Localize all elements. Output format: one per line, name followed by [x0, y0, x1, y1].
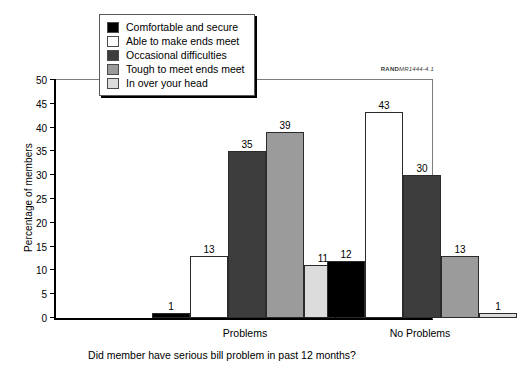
bar: 30 — [403, 175, 441, 318]
legend-item: Tough to meet ends meet — [107, 62, 245, 76]
legend-swatch-icon — [107, 78, 119, 89]
y-axis-tick-label: 5 — [41, 289, 47, 300]
y-axis-tick — [50, 198, 56, 199]
y-axis-tick-label: 20 — [36, 217, 47, 228]
y-axis-tick-label: 10 — [36, 265, 47, 276]
y-axis-tick-label: 30 — [36, 170, 47, 181]
x-axis-category-label: No Problems — [390, 327, 451, 339]
bar-value-label: 30 — [416, 163, 427, 174]
legend-item: Occasional difficulties — [107, 48, 245, 62]
y-axis-tick — [50, 222, 56, 223]
y-axis-tick-label: 45 — [36, 98, 47, 109]
legend-swatch-icon — [107, 64, 119, 75]
y-axis-tick-label: 35 — [36, 146, 47, 157]
legend-item: Able to make ends meet — [107, 34, 245, 48]
y-axis-tick — [50, 317, 56, 318]
legend-swatch-icon — [107, 36, 119, 47]
y-axis-tick-label: 50 — [36, 75, 47, 86]
bar-value-label: 12 — [340, 249, 351, 260]
y-axis-tick — [50, 174, 56, 175]
rand-document-id: RANDMR1444-4.1 — [381, 66, 434, 72]
bar-value-label: 43 — [378, 100, 389, 111]
y-axis-tick-label: 40 — [36, 122, 47, 133]
bar-value-label: 1 — [168, 301, 174, 312]
chart-legend: Comfortable and secureAble to make ends … — [99, 14, 255, 96]
bar: 1 — [152, 313, 190, 318]
legend-item-label: Able to make ends meet — [126, 36, 239, 47]
x-axis-caption: Did member have serious bill problem in … — [0, 349, 444, 361]
bar-value-label: 1 — [495, 301, 501, 312]
legend-item: Comfortable and secure — [107, 20, 245, 34]
y-axis-tick-label: 15 — [36, 241, 47, 252]
legend-item-label: Tough to meet ends meet — [126, 64, 245, 75]
y-axis-tick-label: 25 — [36, 194, 47, 205]
bar: 1 — [479, 313, 517, 318]
bar-value-label: 13 — [454, 244, 465, 255]
legend-item-label: In over your head — [126, 78, 208, 89]
y-axis-tick — [50, 103, 56, 104]
bar: 39 — [266, 132, 304, 318]
y-axis-tick — [50, 127, 56, 128]
bar: 13 — [441, 256, 479, 318]
plot-inner: 05101520253035404550113353911124330131 — [56, 80, 432, 318]
x-axis-category-label: Problems — [223, 327, 267, 339]
y-axis-tick — [50, 150, 56, 151]
legend-item-label: Comfortable and secure — [126, 22, 238, 33]
y-axis-tick — [50, 293, 56, 294]
bar-value-label: 35 — [241, 139, 252, 150]
bar-value-label: 13 — [203, 244, 214, 255]
group-separator-tick — [335, 309, 336, 318]
legend-swatch-icon — [107, 22, 119, 33]
bar-value-label: 39 — [279, 120, 290, 131]
plot-area: 05101520253035404550113353911124330131 — [54, 79, 433, 320]
rand-brand: RAND — [381, 66, 399, 72]
legend-item-label: Occasional difficulties — [126, 50, 227, 61]
bar: 12 — [327, 261, 365, 318]
legend-item: In over your head — [107, 76, 245, 90]
y-axis-tick — [50, 269, 56, 270]
y-axis-tick-label: 0 — [41, 313, 47, 324]
y-axis-title: Percentage of members — [23, 93, 34, 303]
bar: 43 — [365, 112, 403, 318]
legend-swatch-icon — [107, 50, 119, 61]
y-axis-tick — [50, 246, 56, 247]
bar: 35 — [228, 151, 266, 318]
y-axis-tick — [50, 79, 56, 80]
bar: 13 — [190, 256, 228, 318]
rand-code: MR1444-4.1 — [399, 66, 434, 72]
